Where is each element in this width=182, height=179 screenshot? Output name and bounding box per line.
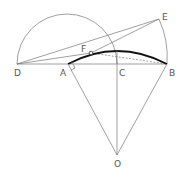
label-C: C — [119, 68, 125, 78]
geometry-diagram: D A C B E F O — [0, 0, 182, 179]
point-F — [89, 51, 93, 55]
label-F: F — [81, 44, 86, 54]
line-DE — [17, 19, 159, 64]
label-B: B — [169, 68, 175, 78]
arc-EB — [159, 19, 167, 64]
label-E: E — [162, 12, 168, 22]
line-AO — [68, 64, 117, 155]
label-D: D — [14, 68, 21, 78]
label-O: O — [114, 159, 121, 169]
right-angle-marker — [71, 62, 75, 70]
label-A: A — [60, 68, 67, 78]
line-FE — [91, 19, 159, 53]
